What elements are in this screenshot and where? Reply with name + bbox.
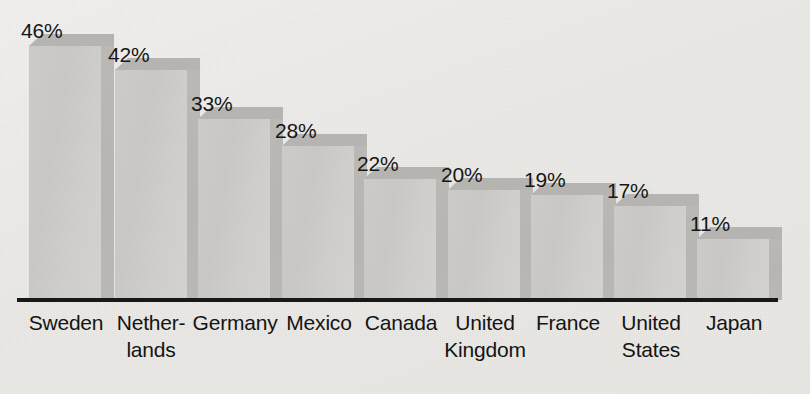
bar-canada — [364, 178, 436, 300]
bar-japan — [697, 238, 769, 300]
bar-front-face — [198, 118, 270, 300]
bar-front-face — [364, 178, 436, 300]
x-axis-baseline — [17, 298, 778, 302]
bar-mexico — [282, 145, 354, 300]
bar-united-states — [614, 205, 686, 300]
bar-value-label: 33% — [191, 92, 232, 116]
bar-front-face — [614, 205, 686, 300]
bar-value-label: 46% — [21, 19, 62, 43]
bar-front-face — [531, 194, 603, 300]
bar-france — [531, 194, 603, 300]
bar-value-label: 20% — [441, 163, 482, 187]
bar-value-label: 22% — [357, 152, 398, 176]
bar-front-face — [448, 189, 520, 300]
bar-front-face — [282, 145, 354, 300]
bar-sweden — [29, 45, 101, 300]
bar-value-label: 17% — [607, 179, 648, 203]
bar-chart: SwedenNether- landsGermanyMexicoCanadaUn… — [0, 0, 810, 394]
bar-value-label: 19% — [524, 168, 565, 192]
bar-front-face — [115, 69, 187, 300]
x-axis-label-japan: Japan — [679, 309, 789, 336]
bar-front-face — [29, 45, 101, 300]
x-axis-label-row: SwedenNether- landsGermanyMexicoCanadaUn… — [0, 309, 810, 389]
bar-side-face — [101, 34, 114, 300]
bar-germany — [198, 118, 270, 300]
bar-value-label: 11% — [690, 212, 730, 236]
bar-united-kingdom — [448, 189, 520, 300]
bar-nether-lands — [115, 69, 187, 300]
bar-value-label: 42% — [108, 43, 149, 67]
bar-value-label: 28% — [275, 119, 316, 143]
bar-front-face — [697, 238, 769, 300]
